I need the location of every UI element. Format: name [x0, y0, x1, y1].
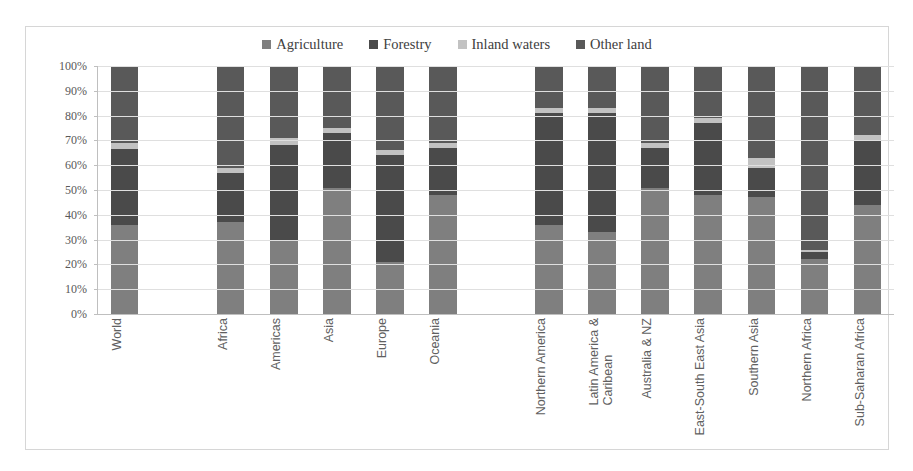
y-tick-label: 40%	[65, 207, 87, 222]
bar-segment-agriculture	[801, 259, 829, 314]
bar-segment-forestry	[270, 145, 298, 239]
gridline	[98, 116, 894, 117]
bar-segment-inland-waters	[323, 128, 351, 133]
axis-tick	[94, 66, 98, 67]
x-label-southern-asia: Southern Asia	[747, 318, 761, 396]
y-tick-label: 80%	[65, 108, 87, 123]
x-label-oceania: Oceania	[428, 318, 442, 365]
bar-segment-agriculture	[217, 222, 245, 314]
y-tick-label: 0%	[71, 307, 87, 322]
x-label-east-south-east-asia: East-South East Asia	[693, 318, 707, 435]
plot-wrapper: 0%10%20%30%40%50%60%70%80%90%100% WorldA…	[39, 66, 878, 449]
axis-tick	[94, 91, 98, 92]
bar-segment-agriculture	[111, 225, 139, 314]
axis-tick	[94, 190, 98, 191]
bar-segment-inland-waters	[748, 158, 776, 168]
legend-item-inland-waters: Inland waters	[458, 37, 551, 52]
y-tick-label: 20%	[65, 257, 87, 272]
bar-segment-inland-waters	[801, 250, 829, 252]
x-label-africa: Africa	[216, 318, 230, 350]
x-label-northern-africa: Northern Africa	[800, 318, 814, 401]
x-label-asia: Asia	[322, 318, 336, 342]
bar-segment-inland-waters	[588, 108, 616, 113]
legend-label-other-land: Other land	[590, 37, 652, 52]
gridline	[98, 240, 894, 241]
bar-segment-other-land	[111, 66, 139, 143]
bar-segment-forestry	[748, 168, 776, 198]
legend-label-forestry: Forestry	[383, 37, 431, 52]
bar-segment-forestry	[535, 113, 563, 225]
bar-segment-inland-waters	[270, 138, 298, 145]
legend-item-forestry: Forestry	[369, 37, 431, 52]
x-label-europe: Europe	[375, 318, 389, 358]
y-tick-label: 100%	[59, 59, 87, 74]
y-tick-label: 30%	[65, 232, 87, 247]
axis-tick	[94, 215, 98, 216]
bar-segment-agriculture	[535, 225, 563, 314]
axis-tick	[94, 240, 98, 241]
bar-segment-forestry	[694, 123, 722, 195]
axis-tick	[94, 165, 98, 166]
bar-segment-other-land	[694, 66, 722, 118]
bar-segment-other-land	[323, 66, 351, 128]
bar-segment-inland-waters	[376, 150, 404, 155]
y-tick-label: 50%	[65, 183, 87, 198]
x-label-americas: Americas	[269, 318, 283, 370]
bar-segment-other-land	[748, 66, 776, 158]
bar-segment-agriculture	[323, 188, 351, 314]
bar-segment-other-land	[429, 66, 457, 143]
y-tick-label: 70%	[65, 133, 87, 148]
x-label-sub-saharan-africa: Sub-Saharan Africa	[853, 318, 867, 426]
x-label-northern-america: Northern America	[534, 318, 548, 415]
bar-segment-agriculture	[694, 195, 722, 314]
y-tick-label: 60%	[65, 158, 87, 173]
bar-segment-other-land	[641, 66, 669, 143]
y-tick-label: 90%	[65, 83, 87, 98]
bar-segment-forestry	[854, 140, 882, 204]
bar-segment-other-land	[535, 66, 563, 108]
chart-legend: Agriculture Forestry Inland waters Other…	[26, 37, 888, 52]
axis-tick	[94, 116, 98, 117]
axis-tick	[94, 140, 98, 141]
bar-segment-forestry	[376, 155, 404, 262]
bar-segment-other-land	[270, 66, 298, 138]
bar-segment-inland-waters	[535, 108, 563, 113]
legend-swatch-forestry	[369, 40, 378, 49]
bar-segment-agriculture	[270, 240, 298, 314]
bar-segment-other-land	[801, 66, 829, 250]
bar-segment-forestry	[429, 148, 457, 195]
bar-segment-agriculture	[854, 205, 882, 314]
gridline	[98, 190, 894, 191]
gridline	[98, 165, 894, 166]
y-tick-label: 10%	[65, 282, 87, 297]
bar-segment-inland-waters	[641, 143, 669, 148]
chart-container: Agriculture Forestry Inland waters Other…	[25, 26, 889, 450]
legend-label-inland-waters: Inland waters	[472, 37, 551, 52]
legend-item-other-land: Other land	[576, 37, 652, 52]
axis-tick	[94, 264, 98, 265]
bar-segment-agriculture	[376, 262, 404, 314]
bar-segment-inland-waters	[694, 118, 722, 123]
axis-tick	[94, 314, 98, 315]
bar-segment-inland-waters	[429, 143, 457, 148]
bar-segment-other-land	[854, 66, 882, 135]
bar-segment-other-land	[217, 66, 245, 168]
legend-item-agriculture: Agriculture	[262, 37, 343, 52]
bar-segment-inland-waters	[217, 168, 245, 173]
gridline	[98, 289, 894, 290]
legend-swatch-other-land	[576, 40, 585, 49]
bar-segment-agriculture	[588, 232, 616, 314]
axis-tick	[94, 289, 98, 290]
legend-swatch-inland-waters	[458, 40, 467, 49]
bar-segment-forestry	[801, 252, 829, 259]
bar-segment-other-land	[588, 66, 616, 108]
bar-segment-forestry	[641, 148, 669, 188]
x-label-australia-nz: Australia & NZ	[640, 318, 654, 399]
plot-area	[97, 66, 894, 315]
bar-segment-inland-waters	[111, 143, 139, 149]
gridline	[98, 140, 894, 141]
gridline	[98, 91, 894, 92]
x-label-latin-america-caribean: Latin America & Caribean	[587, 318, 616, 406]
gridline	[98, 215, 894, 216]
bar-segment-forestry	[111, 149, 139, 225]
